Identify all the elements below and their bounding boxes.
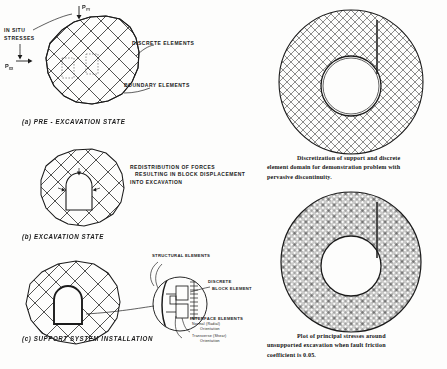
label-stress-pxx: PXX [5, 63, 13, 72]
figure-sheet: IN SITU STRESSES PYY PXX DISCRETE ELEMEN… [0, 0, 447, 369]
discrete-element-mesh-a [8, 0, 212, 154]
label-interface-normal-2: Orientation [190, 327, 243, 332]
stress-arrow-xx [16, 59, 33, 64]
caption-discretization: Discretization of support and discrete e… [267, 154, 443, 182]
detail-tunnel-wall [162, 278, 168, 332]
panel-c-drawing [0, 252, 250, 369]
label-stress-pyy: PYY [82, 4, 90, 13]
highlighted-block-a [62, 54, 98, 78]
discretization-drawing [255, 2, 447, 162]
detail-structural-bars [166, 294, 176, 312]
detail-block-element-2 [176, 304, 188, 318]
label-structural-elements: STRUCTURAL ELEMENTS [152, 253, 210, 259]
label-interface-elements-group: INTERFACE ELEMENTS Normal (Radial) Orien… [190, 316, 243, 344]
label-boundary-elements: BOUNDARY ELEMENTS [124, 82, 190, 89]
supported-excavation-opening-c [54, 286, 82, 324]
caption-panel-c: (c) SUPPORT SYSTEM INSTALLATION [22, 335, 153, 342]
panel-c-support-system: STRUCTURAL ELEMENTS DISCRETE BLOCK ELEME… [0, 252, 250, 369]
excavation-opening-top [321, 56, 381, 116]
caption-panel-a: (a) PRE - EXCAVATION STATE [22, 118, 125, 125]
figure-principal-stresses: Plot of principal stresses around unsupp… [255, 188, 447, 369]
stress-arrow-yy [77, 6, 82, 20]
caption-panel-b: (b) EXCAVATION STATE [22, 233, 104, 240]
caption-principal-stresses: Plot of principal stresses around unsupp… [267, 332, 443, 360]
detail-leader-line [86, 306, 154, 314]
panel-a-pre-excavation: IN SITU STRESSES PYY PXX DISCRETE ELEMEN… [0, 0, 240, 138]
note-force-redistribution: REDISTRIBUTION OF FORCES RESULTING IN BL… [130, 164, 245, 186]
label-interface-shear-2: Orientation [190, 339, 243, 344]
detail-interface-hatch [190, 280, 198, 320]
label-in-situ-stresses: IN SITU STRESSES [4, 27, 35, 42]
leader-in-situ-arrowhead [18, 55, 23, 60]
rock-mass-outline-b [41, 149, 124, 226]
panel-b-excavation: REDISTRIBUTION OF FORCES RESULTING IN BL… [0, 138, 240, 252]
detail-block-element-1 [176, 286, 188, 300]
principal-stress-drawing [255, 188, 447, 340]
label-discrete-block-element: DISCRETE BLOCK ELEMENT [208, 279, 252, 292]
figure-discretization: Discretization of support and discrete e… [255, 2, 447, 188]
label-discrete-elements: DISCRETE ELEMENTS [132, 40, 194, 47]
excavation-opening-bottom [321, 236, 381, 296]
